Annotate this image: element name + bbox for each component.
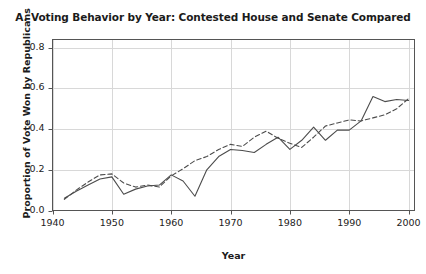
x-tick-label: 1950 [95,217,129,228]
x-tick-label: 1960 [154,217,188,228]
plot-frame [53,40,415,211]
x-tick-label: 1980 [273,217,307,228]
y-tick-label: 0.8 [17,41,45,52]
x-tick-label: 2000 [392,217,426,228]
x-tick-label: 1970 [214,217,248,228]
y-tick-label: 0.0 [17,204,45,215]
series-line-2 [64,99,408,200]
plot-area [0,0,426,274]
y-tick-label: 0.4 [17,122,45,133]
data-series [64,97,408,200]
gridlines [53,40,415,211]
y-tick-label: 0.2 [17,163,45,174]
chart-figure: A. Voting Behavior by Year: Contested Ho… [0,0,426,274]
series-line-1 [64,97,408,199]
x-tick-label: 1990 [332,217,366,228]
y-tick-label: 0.6 [17,81,45,92]
x-tick-label: 1940 [36,217,70,228]
axis-ticks [49,49,410,215]
